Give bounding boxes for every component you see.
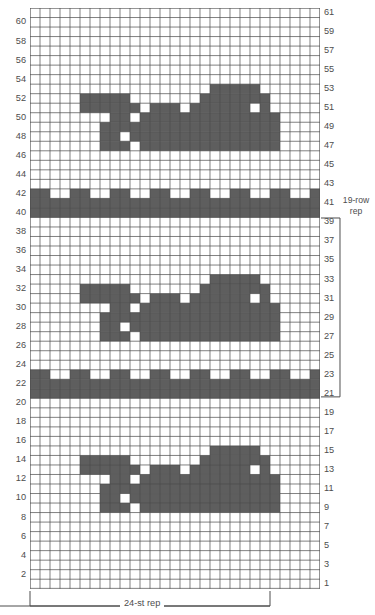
chart-cell [30, 198, 40, 208]
chart-cell [190, 122, 200, 132]
chart-cell [250, 132, 260, 142]
chart-cell [230, 208, 240, 218]
chart-cell [100, 389, 110, 399]
chart-cell [230, 132, 240, 142]
axis-tick-right-45: 45 [324, 160, 350, 169]
chart-cell [220, 494, 230, 504]
chart-cell [100, 141, 110, 151]
chart-cell [240, 332, 250, 342]
chart-cell [130, 313, 140, 323]
chart-cell [250, 284, 260, 294]
chart-cell [50, 389, 60, 399]
chart-cell [210, 84, 220, 94]
chart-cell [200, 303, 210, 313]
chart-cell [200, 103, 210, 113]
chart-cell [210, 141, 220, 151]
chart-cell [270, 389, 280, 399]
chart-cell [160, 474, 170, 484]
chart-cell [160, 389, 170, 399]
chart-cell [220, 198, 230, 208]
chart-cell [80, 465, 90, 475]
chart-cell [250, 503, 260, 513]
chart-cell [190, 294, 200, 304]
chart-cell [130, 198, 140, 208]
chart-cell [140, 322, 150, 332]
chart-cell [230, 84, 240, 94]
chart-cell [230, 113, 240, 123]
chart-cell [110, 113, 120, 123]
chart-cell [140, 484, 150, 494]
chart-cell [260, 294, 270, 304]
axis-tick-left-24: 24 [2, 360, 26, 369]
chart-cell [110, 122, 120, 132]
chart-cell [160, 198, 170, 208]
chart-cell [200, 208, 210, 218]
chart-cell [270, 132, 280, 142]
chart-cell [170, 198, 180, 208]
chart-cell [240, 313, 250, 323]
chart-cell [260, 474, 270, 484]
chart-cell [250, 332, 260, 342]
chart-cell [190, 303, 200, 313]
axis-tick-right-11: 11 [324, 484, 350, 493]
chart-cell [110, 484, 120, 494]
chart-cell [290, 208, 300, 218]
chart-cell [30, 370, 40, 380]
chart-cell [240, 379, 250, 389]
chart-cell [180, 198, 190, 208]
chart-cell [70, 198, 80, 208]
chart-cell [230, 494, 240, 504]
chart-cell [170, 494, 180, 504]
chart-cell [180, 303, 190, 313]
chart-cell [120, 113, 130, 123]
chart-cell [250, 208, 260, 218]
chart-cell [200, 141, 210, 151]
chart-cell [110, 103, 120, 113]
chart-grid-svg [30, 8, 320, 589]
chart-cell [230, 503, 240, 513]
chart-cell [100, 322, 110, 332]
chart-cell [140, 494, 150, 504]
chart-cell [180, 494, 190, 504]
axis-tick-right-51: 51 [324, 103, 350, 112]
chart-cell [90, 198, 100, 208]
chart-cell [140, 113, 150, 123]
chart-cell [280, 389, 290, 399]
chart-cell [120, 465, 130, 475]
chart-cell [230, 103, 240, 113]
chart-cell [160, 484, 170, 494]
chart-cell [40, 189, 50, 199]
chart-cell [140, 313, 150, 323]
axis-tick-right-25: 25 [324, 351, 350, 360]
chart-cell [250, 446, 260, 456]
axis-tick-right-37: 37 [324, 236, 350, 245]
chart-cell [260, 198, 270, 208]
chart-cell [170, 113, 180, 123]
axis-tick-right-19: 19 [324, 408, 350, 417]
chart-cell [110, 313, 120, 323]
axis-tick-right-57: 57 [324, 46, 350, 55]
chart-cell [200, 389, 210, 399]
chart-cell [250, 474, 260, 484]
chart-cell [210, 198, 220, 208]
chart-cell [140, 332, 150, 342]
chart-cell [250, 494, 260, 504]
chart-cell [150, 141, 160, 151]
chart-cell [190, 103, 200, 113]
axis-tick-left-44: 44 [2, 170, 26, 179]
chart-cell [220, 275, 230, 285]
chart-cell [50, 208, 60, 218]
chart-cell [230, 389, 240, 399]
chart-cell [230, 322, 240, 332]
chart-cell [160, 370, 170, 380]
axis-tick-left-46: 46 [2, 151, 26, 160]
chart-cell [300, 198, 310, 208]
chart-cell [140, 141, 150, 151]
chart-cell [190, 379, 200, 389]
chart-cell [30, 189, 40, 199]
chart-cell [170, 103, 180, 113]
chart-cell [210, 122, 220, 132]
axis-tick-left-6: 6 [2, 532, 26, 541]
axis-tick-right-53: 53 [324, 84, 350, 93]
chart-cell [150, 313, 160, 323]
